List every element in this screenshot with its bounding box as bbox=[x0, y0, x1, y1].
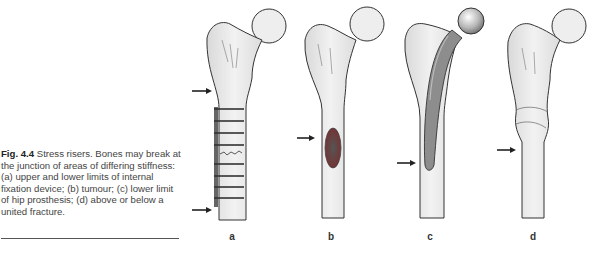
panel-b bbox=[297, 7, 384, 218]
panel-label-a: a bbox=[222, 231, 242, 242]
arrow-icon bbox=[192, 207, 212, 213]
panel-label-b: b bbox=[321, 231, 341, 242]
panel-label-d: d bbox=[523, 231, 543, 242]
arrow-icon bbox=[192, 88, 212, 94]
panel-label-c: c bbox=[420, 231, 440, 242]
femur-illustrations bbox=[0, 0, 593, 257]
arrow-icon bbox=[297, 135, 315, 141]
panel-c bbox=[397, 8, 484, 218]
arrow-icon bbox=[397, 160, 416, 166]
panel-d bbox=[497, 9, 586, 218]
panel-a bbox=[192, 9, 286, 220]
arrow-icon bbox=[497, 147, 516, 153]
